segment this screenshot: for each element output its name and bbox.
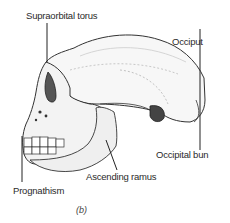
label-occipital-bun: Occipital bun (156, 149, 208, 160)
label-prognathism: Prognathism (13, 185, 64, 196)
label-ascending-ramus: Ascending ramus (86, 171, 156, 182)
label-occiput: Occiput (172, 36, 203, 47)
figure-caption: (b) (76, 205, 87, 215)
label-supraorbital-torus: Supraorbital torus (26, 10, 97, 21)
